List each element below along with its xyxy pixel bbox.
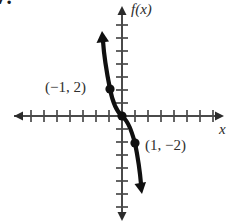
curve-lower-arrow	[135, 182, 147, 194]
x-axis-left-arrow	[14, 112, 23, 121]
y-axis-label: f(x)	[131, 2, 152, 17]
y-axis-bottom-arrow	[118, 212, 127, 221]
point-marker-1-neg2	[130, 138, 139, 147]
x-axis-right-arrow	[215, 112, 224, 121]
point-marker-origin	[117, 111, 126, 120]
coordinate-plane	[0, 0, 234, 224]
point-label-1-neg2: (1, −2)	[145, 138, 186, 153]
x-axis-label: x	[219, 122, 226, 137]
graph-figure: 7.	[0, 0, 234, 224]
curve-upper-arrow	[97, 31, 110, 43]
y-axis-top-arrow	[118, 6, 127, 15]
point-label-neg1-2: (−1, 2)	[45, 80, 86, 95]
point-marker-neg1-2	[105, 84, 114, 93]
